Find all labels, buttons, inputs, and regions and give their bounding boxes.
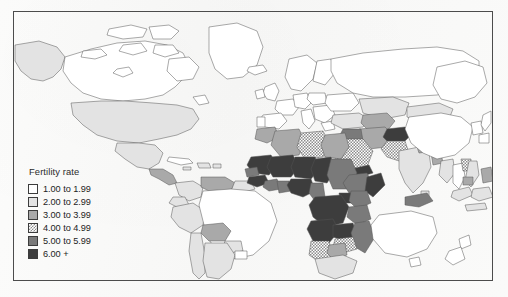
legend-label-3-00-to-3-99: 3.00 to 3.99 bbox=[43, 210, 91, 220]
legend-label-6-00-plus: 6.00 + bbox=[43, 249, 69, 259]
legend-swatch-5-00-to-5-99 bbox=[28, 236, 38, 246]
legend-label-4-00-to-4-99: 4.00 to 4.99 bbox=[43, 223, 91, 233]
legend-swatch-3-00-to-3-99 bbox=[28, 210, 38, 220]
screenshot-root: Fertility rate 1.00 to 1.99 2.00 to 2.99… bbox=[0, 0, 508, 297]
legend-swatch-2-00-to-2-99 bbox=[28, 197, 38, 207]
legend-title: Fertility rate bbox=[29, 166, 123, 177]
legend-swatch-6-00-plus bbox=[28, 249, 38, 259]
legend-label-1-00-to-1-99: 1.00 to 1.99 bbox=[43, 184, 91, 194]
legend-item: 2.00 to 2.99 bbox=[28, 195, 123, 208]
legend-label-5-00-to-5-99: 5.00 to 5.99 bbox=[43, 236, 91, 246]
legend-item: 3.00 to 3.99 bbox=[28, 208, 123, 221]
legend-item: 5.00 to 5.99 bbox=[28, 234, 123, 247]
legend-label-2-00-to-2-99: 2.00 to 2.99 bbox=[43, 197, 91, 207]
legend-item: 4.00 to 4.99 bbox=[28, 221, 123, 234]
legend-item: 1.00 to 1.99 bbox=[28, 182, 123, 195]
legend-swatch-1-00-to-1-99 bbox=[28, 184, 38, 194]
legend-item: 6.00 + bbox=[28, 247, 123, 260]
legend-swatch-4-00-to-4-99 bbox=[28, 223, 38, 233]
map-legend: Fertility rate 1.00 to 1.99 2.00 to 2.99… bbox=[28, 166, 123, 260]
